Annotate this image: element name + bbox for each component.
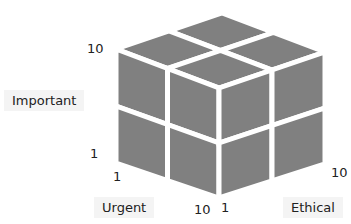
cube-diagram <box>0 0 351 224</box>
left-axis-min-tick: 1 <box>113 170 121 183</box>
cube-faces <box>116 13 325 198</box>
important-axis-label: Important <box>4 90 84 111</box>
left-axis-max-tick: 10 <box>194 203 211 216</box>
ethical-axis-label: Ethical <box>283 197 343 218</box>
vertical-axis-max-tick: 10 <box>87 42 104 55</box>
right-axis-min-tick: 1 <box>221 201 229 214</box>
urgent-axis-label: Urgent <box>94 197 154 218</box>
right-axis-max-tick: 10 <box>331 166 348 179</box>
vertical-axis-min-tick: 1 <box>90 147 98 160</box>
